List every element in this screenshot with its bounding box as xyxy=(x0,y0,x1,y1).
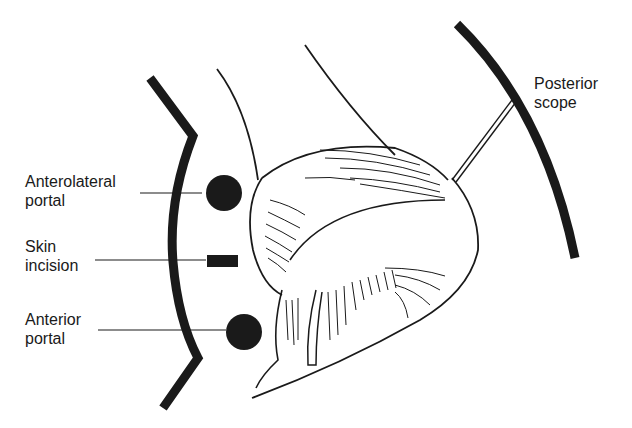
arm-outline-left xyxy=(217,69,258,180)
label-skin-incision-line1: Skin xyxy=(25,237,78,256)
cuff-inner-curve xyxy=(290,200,445,260)
skin-incision-marker xyxy=(207,255,238,267)
label-posterior-scope: Posterior scope xyxy=(534,74,598,112)
diagram-canvas: Anterolateral portal Skin incision Anter… xyxy=(0,0,632,428)
label-skin-incision-line2: incision xyxy=(25,256,78,275)
label-anterolateral-portal: Anterolateral portal xyxy=(25,172,116,210)
anterolateral-portal-marker xyxy=(206,175,242,211)
anterior-portal-marker xyxy=(226,314,262,350)
arm-outline-right xyxy=(305,45,395,155)
humeral-head-outline xyxy=(250,147,448,295)
label-anterior-line1: Anterior xyxy=(25,310,81,329)
glenoid-outline xyxy=(252,178,478,398)
label-skin-incision: Skin incision xyxy=(25,237,78,275)
label-anterolateral-line2: portal xyxy=(25,191,116,210)
posterior-scope xyxy=(452,100,516,182)
label-posterior-line1: Posterior xyxy=(534,74,598,93)
label-anterior-portal: Anterior portal xyxy=(25,310,81,348)
label-anterolateral-line1: Anterolateral xyxy=(25,172,116,191)
label-anterior-line2: portal xyxy=(25,329,81,348)
anterior-skin-outline xyxy=(150,78,198,408)
cuff-hatching xyxy=(265,150,445,345)
posterior-skin-outline xyxy=(457,24,575,258)
label-posterior-line2: scope xyxy=(534,93,598,112)
illustration xyxy=(0,0,632,428)
biceps-tendon xyxy=(308,290,322,365)
